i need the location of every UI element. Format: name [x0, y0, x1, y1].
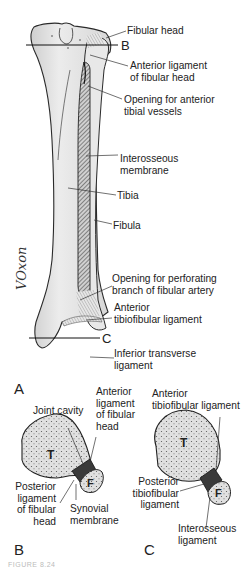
label-anterior-tibiofibular-ligament-c: Anterior tibiofibular ligament	[152, 388, 240, 411]
label-anterior-ligament-fibular-head: Anterior ligament of fibular head	[130, 60, 207, 83]
label-joint-cavity: Joint cavity	[33, 405, 83, 417]
label-fibular-head: Fibular head	[127, 25, 184, 37]
label-opening-perforating-branch: Opening for perforating branch of fibula…	[112, 273, 217, 296]
section-marker-c: C	[102, 331, 111, 346]
label-fibula: Fibula	[113, 220, 141, 232]
tibia-letter-b: T	[47, 448, 54, 462]
artist-signature: VOxon	[14, 247, 29, 290]
label-posterior-ligament-fibular-head: Posterior ligament of fibular head	[14, 481, 56, 527]
label-interosseous-membrane: Interosseous membrane	[120, 153, 178, 176]
panel-letter-a: A	[14, 380, 24, 397]
figure-caption: FIGURE 8.24	[8, 561, 56, 568]
fibula-letter-c: F	[215, 487, 222, 499]
label-interosseous-ligament: Interosseous ligament	[178, 523, 236, 546]
fibula-letter-b: F	[87, 477, 94, 489]
interosseous-membrane	[78, 62, 90, 300]
label-anterior-ligament-fibular-head-b: Anterior ligament of fibular head	[96, 386, 135, 432]
label-tibia: Tibia	[117, 190, 139, 202]
section-marker-b: B	[121, 38, 130, 53]
label-inferior-transverse-ligament: Inferior transverse ligament	[114, 348, 196, 371]
label-posterior-tibiofibular-ligament: Posterior tibiofibular ligament	[129, 476, 179, 511]
panel-letter-c: C	[144, 541, 155, 558]
panel-letter-b: B	[14, 541, 24, 558]
label-opening-anterior-tibial-vessels: Opening for anterior tibial vessels	[124, 94, 215, 117]
panel-a-leg-bones	[31, 23, 111, 348]
label-anterior-tibiofibular-ligament-a: Anterior tibiofibular ligament	[114, 302, 202, 325]
label-synovial-membrane: Synovial membrane	[70, 503, 119, 526]
tibia-letter-c: T	[180, 436, 187, 450]
